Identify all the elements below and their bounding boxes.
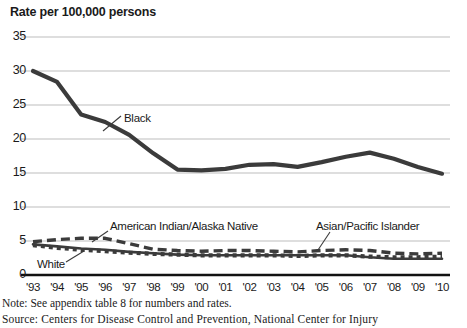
y-tick-label: 25 <box>0 97 26 111</box>
note-text: Note: See appendix table 8 for numbers a… <box>2 297 232 309</box>
y-tick-label: 10 <box>0 199 26 213</box>
x-tick-label: '02 <box>237 281 263 293</box>
x-tick-label: '99 <box>164 281 190 293</box>
source-text: Source: Centers for Disease Control and … <box>2 313 378 325</box>
series-label-white: White <box>37 258 65 270</box>
x-tick-label: '05 <box>309 281 335 293</box>
annotation-leader-line <box>66 251 84 262</box>
y-tick-label: 0 <box>0 267 26 281</box>
chart-figure: Rate per 100,000 persons 05101520253035 … <box>0 0 467 328</box>
y-tick-label: 20 <box>0 131 26 145</box>
line-chart-svg <box>0 25 467 283</box>
x-tick-label: '97 <box>116 281 142 293</box>
x-tick-label: '94 <box>44 281 70 293</box>
series-line-white <box>33 244 442 258</box>
x-tick-label: '03 <box>261 281 287 293</box>
x-tick-label: '04 <box>285 281 311 293</box>
plot-area <box>0 25 467 283</box>
x-tick-label: '09 <box>405 281 431 293</box>
y-tick-label: 30 <box>0 63 26 77</box>
x-tick-label: '93 <box>20 281 46 293</box>
x-tick-label: '10 <box>429 281 455 293</box>
series-label-black: Black <box>124 112 151 124</box>
series-line-black <box>33 71 442 174</box>
x-tick-label: '07 <box>357 281 383 293</box>
x-tick-label: '06 <box>333 281 359 293</box>
x-tick-label: '01 <box>212 281 238 293</box>
x-tick-label: '96 <box>92 281 118 293</box>
annotation-leader-line <box>92 231 108 242</box>
y-tick-label: 15 <box>0 165 26 179</box>
y-tick-label: 5 <box>0 233 26 247</box>
page-title: Rate per 100,000 persons <box>10 5 156 19</box>
y-tick-label: 35 <box>0 29 26 43</box>
series-label-asian-pacific-islander: Asian/Pacific Islander <box>316 220 419 232</box>
x-tick-label: '08 <box>381 281 407 293</box>
x-tick-label: '95 <box>68 281 94 293</box>
series-label-american-indian-alaska-native: American Indian/Alaska Native <box>110 220 258 232</box>
x-tick-label: '98 <box>140 281 166 293</box>
x-tick-label: '00 <box>188 281 214 293</box>
